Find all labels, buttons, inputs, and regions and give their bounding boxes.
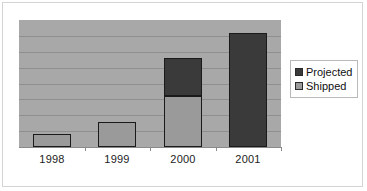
bar-segment-shipped[interactable] (98, 122, 136, 147)
plot-area (19, 20, 281, 147)
bars-layer (19, 20, 281, 147)
x-axis-tick (216, 147, 217, 151)
bar-group[interactable] (33, 134, 71, 147)
bar-segment-projected[interactable] (229, 33, 267, 147)
x-axis-labels: 1998199920002001 (19, 153, 281, 171)
x-axis-tick (150, 147, 151, 151)
bar-segment-shipped[interactable] (164, 96, 202, 147)
legend-label-shipped: Shipped (306, 80, 346, 93)
x-axis-label-2000: 2000 (153, 153, 213, 165)
bar-segment-shipped[interactable] (33, 134, 71, 147)
x-axis-label-1999: 1999 (87, 153, 147, 165)
legend-swatch-projected-icon (295, 68, 303, 76)
x-axis-tick (281, 147, 282, 151)
legend-label-projected: Projected (306, 66, 352, 79)
legend-swatch-shipped-icon (295, 82, 303, 90)
bar-group[interactable] (229, 33, 267, 147)
bar-segment-projected[interactable] (164, 58, 202, 96)
bar-group[interactable] (164, 58, 202, 147)
x-axis-tick (85, 147, 86, 151)
chart-legend: Projected Shipped (290, 60, 358, 98)
legend-item-projected[interactable]: Projected (295, 65, 352, 79)
x-axis-label-1998: 1998 (22, 153, 82, 165)
legend-item-shipped[interactable]: Shipped (295, 79, 352, 93)
x-axis-label-2001: 2001 (218, 153, 278, 165)
bar-group[interactable] (98, 122, 136, 147)
chart-frame: 1998199920002001 Projected Shipped (2, 2, 363, 187)
